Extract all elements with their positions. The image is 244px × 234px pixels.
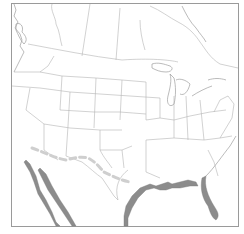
map-canvas bbox=[0, 0, 244, 234]
